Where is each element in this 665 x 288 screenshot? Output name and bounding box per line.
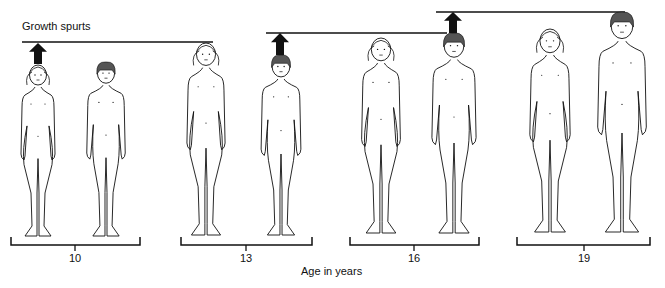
eye-icon xyxy=(108,72,109,73)
male-figure-body xyxy=(261,79,301,235)
chest-mark xyxy=(541,75,542,76)
age-bracket xyxy=(517,237,650,245)
eye-icon xyxy=(377,49,378,50)
navel-mark xyxy=(37,136,38,137)
chest-mark xyxy=(213,86,214,87)
female-figure-head xyxy=(540,29,560,53)
female-figure-body xyxy=(530,55,570,232)
eye-icon xyxy=(283,66,284,67)
chest-mark xyxy=(372,82,373,83)
chest-mark xyxy=(445,79,446,80)
eye-icon xyxy=(102,72,103,73)
age-bracket xyxy=(11,237,140,245)
age-bracket xyxy=(350,237,479,245)
chest-mark xyxy=(30,103,31,104)
chest-mark xyxy=(630,62,631,63)
age-bracket xyxy=(181,237,312,245)
female-figure-head xyxy=(30,65,47,85)
navel-mark xyxy=(380,119,381,120)
eye-icon xyxy=(546,40,547,41)
eye-icon xyxy=(202,54,203,55)
eye-icon xyxy=(40,74,41,75)
navel-mark xyxy=(549,113,550,114)
growth-arrow-icon xyxy=(271,33,289,55)
chest-mark xyxy=(112,102,113,103)
age-label-19: 19 xyxy=(578,252,590,264)
male-figure-body xyxy=(598,41,647,232)
age-label-16: 16 xyxy=(408,252,420,264)
growth-arrow-icon xyxy=(444,12,462,33)
female-figure-head xyxy=(196,43,215,65)
eye-icon xyxy=(617,25,618,26)
eye-icon xyxy=(34,74,35,75)
navel-mark xyxy=(453,116,454,117)
growth-arrow-icon xyxy=(29,43,47,64)
chest-mark xyxy=(612,62,613,63)
navel-mark xyxy=(105,134,106,135)
growth-spurts-diagram: Growth spurts 10 13 16 19 Age in years xyxy=(0,0,665,288)
female-figure-head xyxy=(371,38,390,61)
chest-mark xyxy=(388,82,389,83)
diagram-title: Growth spurts xyxy=(22,20,90,32)
male-figure-body xyxy=(432,60,476,233)
navel-mark xyxy=(280,130,281,131)
chest-mark xyxy=(273,96,274,97)
chest-mark xyxy=(462,79,463,80)
navel-mark xyxy=(205,122,206,123)
eye-icon xyxy=(277,66,278,67)
chest-mark xyxy=(98,102,99,103)
eye-icon xyxy=(553,40,554,41)
navel-mark xyxy=(621,104,622,105)
eye-icon xyxy=(450,45,451,46)
chest-mark xyxy=(198,86,199,87)
eye-icon xyxy=(457,45,458,46)
chest-mark xyxy=(44,103,45,104)
female-figure-body xyxy=(187,68,225,235)
age-label-13: 13 xyxy=(240,252,252,264)
axis-title: Age in years xyxy=(301,265,362,277)
diagram-canvas xyxy=(0,0,665,288)
chest-mark xyxy=(558,75,559,76)
chest-mark xyxy=(288,96,289,97)
eye-icon xyxy=(625,25,626,26)
eye-icon xyxy=(384,49,385,50)
female-figure-body xyxy=(362,63,401,233)
male-figure-body xyxy=(87,85,125,236)
female-figure-body xyxy=(21,87,55,236)
age-label-10: 10 xyxy=(69,252,81,264)
eye-icon xyxy=(209,54,210,55)
